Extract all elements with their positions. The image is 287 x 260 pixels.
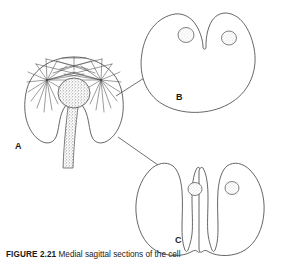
panel-c-daughter-right xyxy=(199,163,264,255)
panel-label-b: B xyxy=(176,93,183,102)
panel-label-a: A xyxy=(15,142,22,151)
panel-c-nucleus-left xyxy=(188,183,202,196)
figure-caption-number: FIGURE 2.21 xyxy=(6,250,56,259)
panel-b-cell-body xyxy=(141,13,255,112)
panel-a-artwork xyxy=(25,57,124,168)
panel-a-sperm-tail xyxy=(63,99,79,168)
figure-artwork xyxy=(0,0,287,260)
panel-label-c: C xyxy=(175,236,182,245)
panel-c-artwork xyxy=(136,162,264,257)
panel-b-nucleus-left xyxy=(178,28,194,43)
figure-caption: FIGURE 2.21 Medial sagittal sections of … xyxy=(6,250,284,260)
panel-c-nucleus-right xyxy=(225,182,239,195)
panel-c-daughter-left xyxy=(136,163,201,255)
figure-caption-text: Medial sagittal sections of the cell xyxy=(59,250,181,259)
panel-b-artwork xyxy=(141,13,255,113)
panel-a-sperm-head xyxy=(58,78,90,108)
panel-b-nucleus-right xyxy=(222,31,237,45)
figure-container: A B C FIGURE 2.21 Medial sagittal sectio… xyxy=(0,0,287,260)
